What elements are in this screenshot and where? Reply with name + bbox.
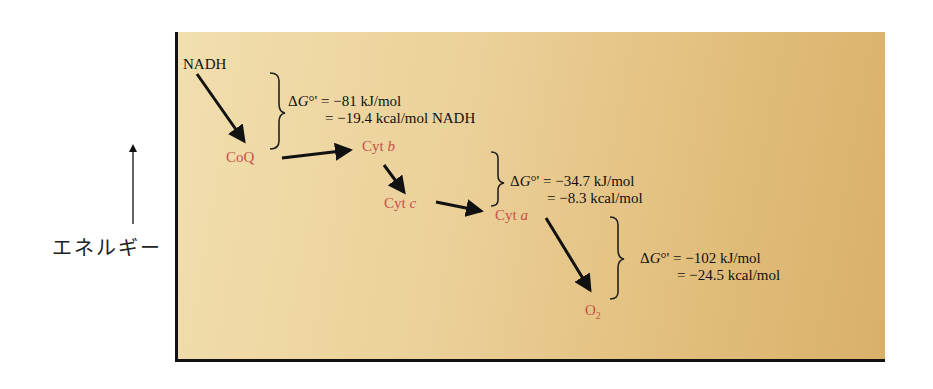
node-cyt-c-suffix: c <box>409 195 416 211</box>
node-o2: O2 <box>585 303 601 321</box>
node-cyt-b: Cyt b <box>362 139 395 154</box>
arrow-coq-cytb-icon <box>282 150 350 158</box>
energy-step-2: ΔG°' = −34.7 kJ/mol = −8.3 kcal/mol <box>510 173 643 207</box>
energy-step-3-kcal: = −24.5 kcal/mol <box>640 267 780 284</box>
node-nadh: NADH <box>183 57 226 72</box>
brace-step3-icon <box>610 217 624 299</box>
arrow-nadh-coq-icon <box>197 74 244 141</box>
brace-step1-icon <box>270 73 285 149</box>
energy-step-1: ΔG°' = −81 kJ/mol = −19.4 kcal/mol NADH <box>288 93 475 127</box>
node-cyt-c-prefix: Cyt <box>384 195 409 211</box>
energy-axis-label: エネルギー <box>52 232 162 261</box>
node-cyt-a-prefix: Cyt <box>495 207 520 223</box>
arrow-cytb-cytc-icon <box>384 165 404 192</box>
node-cyt-b-prefix: Cyt <box>362 138 387 154</box>
node-cyt-a: Cyt a <box>495 208 528 223</box>
brace-step2-icon <box>491 152 504 206</box>
node-o2-base: O <box>585 302 596 318</box>
energy-step-3: ΔG°' = −102 kJ/mol = −24.5 kcal/mol <box>640 250 780 284</box>
node-cyt-b-suffix: b <box>387 138 395 154</box>
energy-step-1-kj: −81 kJ/mol <box>333 93 401 109</box>
node-cyt-a-suffix: a <box>520 207 528 223</box>
arrows-layer <box>0 0 933 389</box>
node-cyt-c: Cyt c <box>384 196 416 211</box>
energy-step-3-kj: −102 kJ/mol <box>685 250 761 266</box>
arrow-cytc-cyta-icon <box>436 202 481 211</box>
energy-step-2-kj: −34.7 kJ/mol <box>555 173 634 189</box>
arrow-cyta-o2-icon <box>546 218 590 290</box>
energy-step-2-kcal: = −8.3 kcal/mol <box>510 190 643 207</box>
energy-step-1-kcal: = −19.4 kcal/mol NADH <box>288 110 475 127</box>
node-coq: CoQ <box>226 150 254 165</box>
node-o2-sub: 2 <box>596 310 601 321</box>
